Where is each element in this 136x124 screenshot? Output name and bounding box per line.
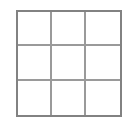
grid-cell-r1c2[interactable]: [52, 12, 86, 46]
grid-cell-r2c2[interactable]: [52, 46, 86, 80]
grid-cell-r1c1[interactable]: [18, 12, 52, 46]
grid-cell-r3c1[interactable]: [18, 81, 52, 115]
canvas: [0, 0, 136, 124]
grid-cell-r2c3[interactable]: [86, 46, 120, 80]
grid-cell-r3c2[interactable]: [52, 81, 86, 115]
grid-cell-r1c3[interactable]: [86, 12, 120, 46]
grid-cell-r3c3[interactable]: [86, 81, 120, 115]
grid-cells-container: [18, 12, 120, 115]
grid-cell-r2c1[interactable]: [18, 46, 52, 80]
grid-board: [16, 10, 122, 117]
